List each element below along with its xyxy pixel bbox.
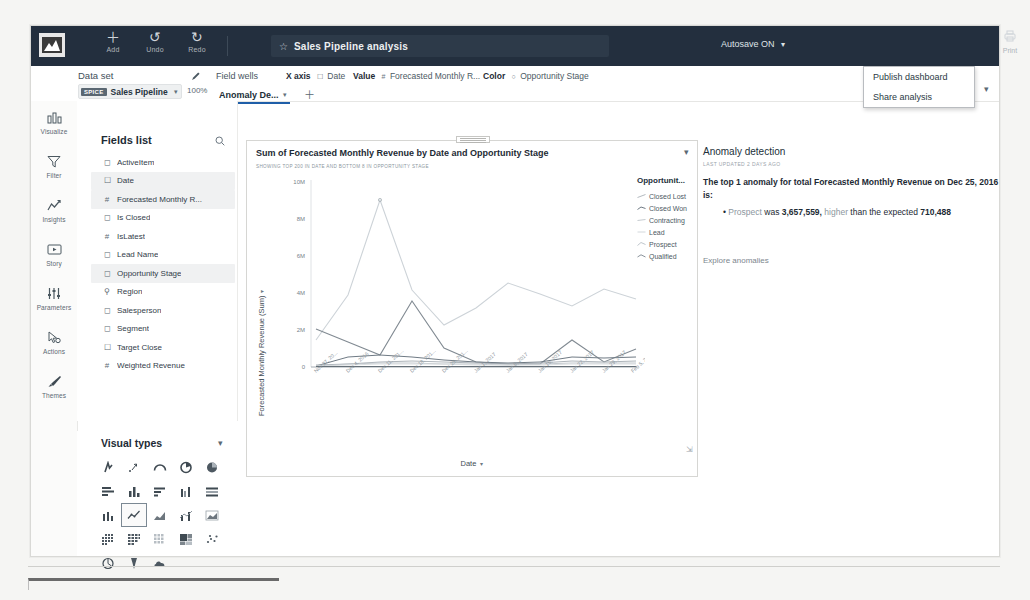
- visual-type-vertical-combo-icon[interactable]: [173, 503, 199, 527]
- field-item-target-close[interactable]: ☐Target Close: [91, 338, 235, 357]
- legend-item-qualified[interactable]: Qualified: [637, 250, 692, 262]
- sidebar-item-visualize[interactable]: Visualize: [31, 101, 77, 145]
- visual-type-gauge-icon[interactable]: [147, 455, 173, 479]
- visual-type-area-line-icon[interactable]: [147, 503, 173, 527]
- visual-type-kpi-icon[interactable]: [121, 455, 147, 479]
- field-item-segment[interactable]: ◻Segment: [91, 320, 235, 339]
- print-button[interactable]: Print: [991, 30, 1029, 55]
- visual-type-heat-map-icon[interactable]: [147, 527, 173, 551]
- field-wells-label: Field wells: [216, 71, 258, 81]
- legend-item-lead[interactable]: Lead: [637, 226, 692, 238]
- field-item-activeitem[interactable]: ◻ActiveItem: [91, 153, 235, 172]
- dataset-selector[interactable]: SPICE Sales Pipeline ▾: [78, 84, 182, 99]
- visual-card: Sum of Forecasted Monthly Revenue by Dat…: [246, 140, 698, 477]
- story-frame-icon: [47, 243, 62, 259]
- sidebar-item-actions[interactable]: Actions: [31, 321, 77, 365]
- field-item-date[interactable]: ☐Date: [91, 172, 235, 191]
- visual-type-tree-map-icon[interactable]: [173, 527, 199, 551]
- sidebar-label-themes: Themes: [42, 391, 66, 400]
- legend-label: Qualified: [649, 253, 677, 260]
- field-well-x-axis[interactable]: X axis ☐ Date: [286, 71, 345, 81]
- resize-handle-icon[interactable]: ⇲: [686, 445, 693, 454]
- publish-dashboard-menu-item[interactable]: Publish dashboard: [864, 67, 974, 87]
- visual-type-line-chart-icon[interactable]: [121, 503, 147, 527]
- legend-label: Closed Won: [649, 205, 687, 212]
- undo-button[interactable]: ↺ Undo: [135, 30, 175, 62]
- sidebar-item-parameters[interactable]: Parameters: [31, 277, 77, 321]
- visual-type-donut-icon[interactable]: [173, 455, 199, 479]
- legend-item-closed-won[interactable]: Closed Won: [637, 202, 692, 214]
- visual-type-horizontal-stacked-bar-icon[interactable]: [95, 479, 121, 503]
- color-well-label: Color: [483, 71, 505, 81]
- sidebar-item-insights[interactable]: Insights: [31, 189, 77, 233]
- tab-label: Anomaly De...: [219, 90, 279, 100]
- visual-type-pie-icon[interactable]: [199, 455, 225, 479]
- chart-plot-area[interactable]: 10M 8M 6M 4M 2M 0: [285, 176, 645, 421]
- color-well-value: Opportunity Stage: [520, 71, 589, 81]
- field-well-value[interactable]: Value # Forecasted Monthly R...: [353, 71, 480, 81]
- dimension-icon: ◻: [101, 158, 113, 167]
- field-item-salesperson[interactable]: ◻Salesperson: [91, 301, 235, 320]
- autosave-toggle[interactable]: Autosave ON ▾: [721, 39, 785, 49]
- redo-button[interactable]: ↻ Redo: [177, 30, 217, 62]
- field-well-color[interactable]: Color ○ Opportunity Stage: [483, 71, 589, 81]
- visual-type-area-chart-icon[interactable]: [199, 503, 225, 527]
- field-item-lead-name[interactable]: ◻Lead Name: [91, 246, 235, 265]
- visual-type-pivot-table-icon[interactable]: [95, 527, 121, 551]
- toolbar-collapse-chevron-icon[interactable]: ▾: [984, 84, 989, 94]
- field-item-weighted-revenue[interactable]: #Weighted Revenue: [91, 357, 235, 376]
- anomaly-detection-panel: Anomaly detection LAST UPDATED 2 DAYS AG…: [703, 146, 1003, 219]
- visual-type-vertical-bar-icon[interactable]: [121, 479, 147, 503]
- anomaly-series-name: Prospect: [728, 207, 762, 217]
- quicksight-logo-icon[interactable]: [39, 33, 65, 57]
- legend-label: Lead: [649, 229, 665, 236]
- share-analysis-menu-item[interactable]: Share analysis: [864, 87, 974, 107]
- quicksight-analysis-window: ＋ Add ↺ Undo ↻ Redo ☆ Sales Pipeline ana…: [30, 25, 1000, 557]
- add-button[interactable]: ＋ Add: [93, 30, 133, 62]
- x-axis-title[interactable]: Date ▾: [247, 459, 697, 468]
- svg-text:Dec 11, 201...: Dec 11, 201...: [377, 348, 405, 374]
- visual-type-stacked-bar-100-icon[interactable]: [199, 479, 225, 503]
- sidebar-item-filter[interactable]: Filter: [31, 145, 77, 189]
- visual-type-clustered-bar-icon[interactable]: [173, 479, 199, 503]
- visual-type-table-icon[interactable]: [121, 527, 147, 551]
- legend-item-prospect[interactable]: Prospect: [637, 238, 692, 250]
- analysis-title-field[interactable]: ☆ Sales Pipeline analysis: [271, 35, 609, 57]
- sidebar-label-visualize: Visualize: [41, 127, 68, 136]
- visual-types-panel: Visual types ▾: [77, 431, 237, 556]
- field-item-forecasted-monthly-revenue[interactable]: #Forecasted Monthly R...: [91, 190, 235, 209]
- sidebar-item-themes[interactable]: Themes: [31, 365, 77, 409]
- sidebar-label-actions: Actions: [43, 347, 65, 356]
- autosave-label: Autosave ON: [721, 39, 775, 49]
- visual-type-donut-alt-icon[interactable]: [95, 551, 121, 575]
- favorite-star-icon[interactable]: ☆: [279, 41, 288, 52]
- explore-anomalies-link[interactable]: Explore anomalies: [703, 256, 769, 265]
- field-item-islatest[interactable]: #IsLatest: [91, 227, 235, 246]
- visual-type-horizontal-bar-icon[interactable]: [147, 479, 173, 503]
- chevron-down-icon[interactable]: ▾: [218, 438, 223, 448]
- sidebar-item-story[interactable]: Story: [31, 233, 77, 277]
- field-item-opportunity-stage[interactable]: ◻Opportunity Stage: [91, 264, 235, 283]
- add-sheet-button[interactable]: ＋: [304, 86, 315, 102]
- svg-text:2M: 2M: [297, 327, 305, 333]
- visual-type-autograph-icon[interactable]: [95, 455, 121, 479]
- visual-type-scatter-plot-icon[interactable]: [199, 527, 225, 551]
- chevron-down-icon: ▾: [283, 91, 287, 99]
- legend-item-closed-lost[interactable]: Closed Lost: [637, 190, 692, 202]
- field-item-is-closed[interactable]: ◻Is Closed: [91, 209, 235, 228]
- search-icon[interactable]: [215, 136, 225, 148]
- field-item-region[interactable]: ⚲Region: [91, 283, 235, 302]
- y-axis-title[interactable]: Forecasted Monthly Revenue (Sum) ▾: [257, 256, 266, 416]
- field-label: Is Closed: [117, 213, 150, 222]
- legend-item-contracting[interactable]: Contracting: [637, 214, 692, 226]
- visual-type-funnel-icon[interactable]: [121, 551, 147, 575]
- pencil-edit-icon[interactable]: [191, 71, 201, 83]
- chart-legend: Opportunit... Closed Lost Closed Won Con…: [637, 176, 692, 262]
- svg-text:Dec 4, 2016: Dec 4, 2016: [345, 350, 370, 373]
- visual-type-combo-bar-icon[interactable]: [95, 503, 121, 527]
- card-drag-handle[interactable]: [456, 136, 490, 143]
- visual-menu-chevron-down-icon[interactable]: ▾: [684, 147, 689, 157]
- bar-chart-icon: [47, 111, 62, 127]
- visual-type-word-cloud-icon[interactable]: [147, 551, 173, 575]
- field-label: Weighted Revenue: [117, 361, 185, 370]
